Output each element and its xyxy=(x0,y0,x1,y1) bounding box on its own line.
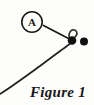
figure-caption: Figure 1 xyxy=(29,84,86,100)
figure-panel: A Figure 1 xyxy=(0,0,94,105)
callout-leader-line xyxy=(44,26,69,39)
callout-a-label: A xyxy=(28,16,36,28)
filled-dot-left-marker xyxy=(68,36,77,45)
filled-dot-right-marker xyxy=(80,38,88,46)
figure-drawing: A Figure 1 xyxy=(0,0,94,105)
